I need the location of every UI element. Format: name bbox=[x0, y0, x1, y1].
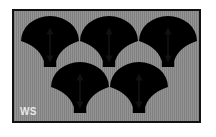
diagram-panel: WS bbox=[12, 9, 201, 123]
domain-shape-1 bbox=[21, 16, 79, 67]
domain-shape-3 bbox=[139, 16, 197, 67]
panel-corner-label: WS bbox=[20, 107, 37, 117]
domain-layer bbox=[14, 11, 199, 121]
domain-shape-4 bbox=[51, 62, 109, 113]
figure-root: WS bbox=[0, 0, 216, 137]
domain-shape-5 bbox=[110, 62, 168, 113]
domain-shape-2 bbox=[80, 16, 138, 67]
